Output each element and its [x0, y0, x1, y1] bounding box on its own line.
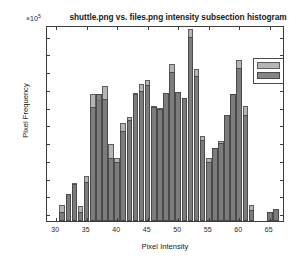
legend-label-shuttle: shuttle.png	[283, 62, 284, 69]
x-tick-mark	[117, 218, 118, 221]
x-tick-label: 55	[204, 226, 212, 233]
x-tick-mark	[178, 218, 179, 221]
histogram-bar	[108, 158, 114, 221]
histogram-bar	[218, 143, 224, 221]
legend-item-shuttle: shuttle.png	[257, 62, 284, 71]
y-tick-mark	[47, 180, 50, 181]
histogram-bar	[102, 99, 108, 221]
y-axis-exponent-label: ×105	[26, 13, 41, 22]
legend-swatch-shuttle	[257, 62, 280, 69]
x-tick-mark	[117, 27, 118, 30]
histogram-bar	[139, 91, 145, 221]
x-axis-title: Pixel Intensity	[46, 242, 284, 251]
y-tick-mark	[280, 109, 283, 110]
y-tick-mark	[280, 180, 283, 181]
histogram-bar	[175, 92, 181, 221]
y-tick-mark	[280, 197, 283, 198]
x-tick-mark	[56, 27, 57, 30]
bars-layer	[47, 27, 283, 221]
x-tick-mark	[209, 218, 210, 221]
histogram-bar	[90, 107, 96, 221]
y-tick-mark	[47, 109, 50, 110]
figure-canvas: shuttle.png vs. files.png intensity subs…	[0, 0, 298, 264]
y-tick-mark	[47, 126, 50, 127]
x-tick-mark	[270, 27, 271, 30]
x-tick-mark	[56, 218, 57, 221]
histogram-bar	[224, 115, 230, 221]
x-tick-mark	[87, 27, 88, 30]
y-tick-mark	[47, 91, 50, 92]
chart-title: shuttle.png vs. files.png intensity subs…	[62, 12, 294, 22]
legend-label-files: files.png	[283, 72, 284, 79]
histogram-bar	[157, 109, 163, 221]
histogram-bar	[169, 72, 175, 221]
y-tick-mark	[47, 73, 50, 74]
y-tick-mark	[280, 38, 283, 39]
x-tick-mark	[148, 218, 149, 221]
y-tick-mark	[47, 38, 50, 39]
y-tick-mark	[280, 162, 283, 163]
y-tick-mark	[47, 55, 50, 56]
x-tick-mark	[239, 218, 240, 221]
histogram-bar	[194, 76, 200, 221]
y-tick-mark	[47, 197, 50, 198]
histogram-bar	[72, 184, 78, 221]
histogram-bar	[78, 212, 84, 221]
x-tick-mark	[87, 218, 88, 221]
y-tick-mark	[47, 144, 50, 145]
histogram-bar	[236, 68, 242, 221]
x-tick-label: 65	[265, 226, 273, 233]
y-tick-mark	[280, 215, 283, 216]
x-tick-label: 40	[112, 226, 120, 233]
histogram-bar	[188, 37, 194, 221]
histogram-bar	[182, 98, 188, 221]
histogram-bar	[127, 120, 133, 221]
y-axis-exponent-base: ×10	[26, 15, 38, 22]
histogram-bar	[120, 131, 126, 221]
histogram-bar	[145, 85, 151, 221]
y-tick-mark	[280, 144, 283, 145]
histogram-bar	[114, 162, 120, 221]
histogram-bar	[84, 182, 90, 221]
x-tick-mark	[148, 27, 149, 30]
x-tick-label: 50	[173, 226, 181, 233]
y-tick-mark	[47, 215, 50, 216]
legend-item-files: files.png	[257, 72, 284, 81]
histogram-bar	[163, 93, 169, 221]
y-axis-title: Pixel Frequency	[21, 51, 30, 171]
chart-legend: shuttle.png files.png	[253, 58, 284, 84]
y-axis-exponent-power: 5	[38, 13, 41, 19]
histogram-bar	[206, 162, 212, 221]
histogram-bar	[133, 94, 139, 221]
y-tick-mark	[47, 162, 50, 163]
histogram-bar	[59, 212, 65, 221]
y-tick-mark	[280, 91, 283, 92]
histogram-bar	[200, 140, 206, 221]
legend-swatch-files	[257, 72, 280, 79]
histogram-bar	[273, 209, 279, 221]
x-tick-mark	[239, 27, 240, 30]
histogram-bar	[66, 194, 72, 221]
x-tick-mark	[209, 27, 210, 30]
x-tick-label: 30	[51, 226, 59, 233]
y-tick-mark	[280, 126, 283, 127]
plot-area: shuttle.png files.png	[46, 26, 284, 222]
x-tick-label: 35	[82, 226, 90, 233]
histogram-bar	[230, 94, 236, 221]
x-tick-mark	[270, 218, 271, 221]
histogram-bar	[151, 107, 157, 221]
y-tick-mark	[280, 55, 283, 56]
histogram-bar	[249, 210, 255, 221]
histogram-bar	[243, 115, 249, 221]
histogram-bar	[96, 94, 102, 221]
x-tick-label: 60	[234, 226, 242, 233]
x-tick-label: 45	[143, 226, 151, 233]
histogram-bar	[212, 148, 218, 221]
x-tick-mark	[178, 27, 179, 30]
